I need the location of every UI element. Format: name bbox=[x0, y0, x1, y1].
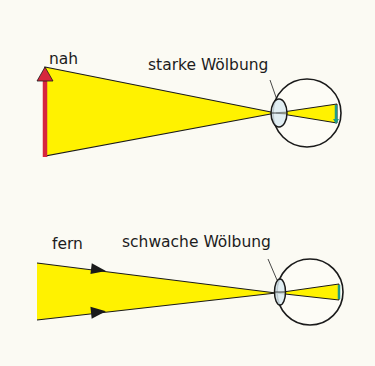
light-cone-outer bbox=[45, 67, 276, 156]
label-schwache-woelbung: schwache Wölbung bbox=[122, 235, 271, 251]
label-fern: fern bbox=[52, 237, 83, 253]
panel-far bbox=[37, 259, 343, 325]
label-starke-woelbung: starke Wölbung bbox=[148, 58, 268, 74]
panel-near bbox=[37, 67, 341, 157]
light-beam-outer bbox=[37, 263, 276, 320]
lens-pointer bbox=[270, 80, 277, 100]
label-nah: nah bbox=[49, 52, 78, 68]
accommodation-diagram: nah starke Wölbung fern schwache Wölbung bbox=[0, 0, 375, 366]
lens-pointer bbox=[268, 259, 277, 280]
